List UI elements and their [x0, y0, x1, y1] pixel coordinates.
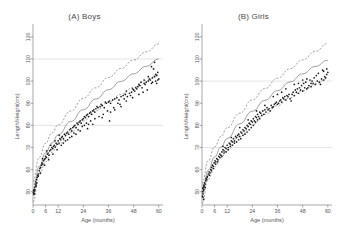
svg-text:Age (months): Age (months): [81, 217, 115, 223]
svg-text:12: 12: [55, 208, 61, 214]
svg-text:110: 110: [26, 55, 32, 63]
svg-text:48: 48: [131, 208, 137, 214]
svg-text:60: 60: [325, 208, 331, 214]
panel-girls: (B) Girls 506070809010011012006122436486…: [169, 0, 338, 243]
svg-text:0: 0: [201, 208, 204, 214]
svg-text:50: 50: [195, 189, 201, 195]
svg-text:36: 36: [275, 208, 281, 214]
panel-boys: (A) Boys 5060708090100110120061224364860…: [0, 0, 169, 243]
svg-text:120: 120: [26, 32, 32, 41]
svg-text:60: 60: [156, 208, 162, 214]
svg-text:80: 80: [195, 122, 201, 128]
svg-text:90: 90: [195, 100, 201, 106]
svg-text:48: 48: [300, 208, 306, 214]
svg-text:50: 50: [26, 189, 32, 195]
svg-text:Age (months): Age (months): [250, 217, 284, 223]
svg-text:110: 110: [195, 55, 201, 63]
svg-text:24: 24: [80, 208, 86, 214]
svg-text:60: 60: [26, 167, 32, 173]
growth-chart-figure: (A) Boys 5060708090100110120061224364860…: [0, 0, 339, 243]
svg-text:100: 100: [26, 77, 32, 86]
svg-text:24: 24: [249, 208, 255, 214]
svg-text:70: 70: [26, 144, 32, 150]
svg-text:80: 80: [26, 122, 32, 128]
svg-text:0: 0: [32, 208, 35, 214]
plot-area-girls: 5060708090100110120061224364860Age (mont…: [169, 0, 338, 243]
svg-text:12: 12: [224, 208, 230, 214]
svg-text:Length/Height(cm): Length/Height(cm): [14, 93, 20, 139]
svg-text:100: 100: [195, 77, 201, 86]
plot-area-boys: 5060708090100110120061224364860Age (mont…: [0, 0, 169, 243]
svg-text:70: 70: [195, 144, 201, 150]
svg-text:36: 36: [106, 208, 112, 214]
svg-text:Length/Height(cm): Length/Height(cm): [183, 93, 189, 139]
svg-text:60: 60: [195, 167, 201, 173]
svg-text:6: 6: [213, 208, 216, 214]
svg-text:120: 120: [195, 32, 201, 41]
svg-text:90: 90: [26, 100, 32, 106]
svg-text:6: 6: [44, 208, 47, 214]
